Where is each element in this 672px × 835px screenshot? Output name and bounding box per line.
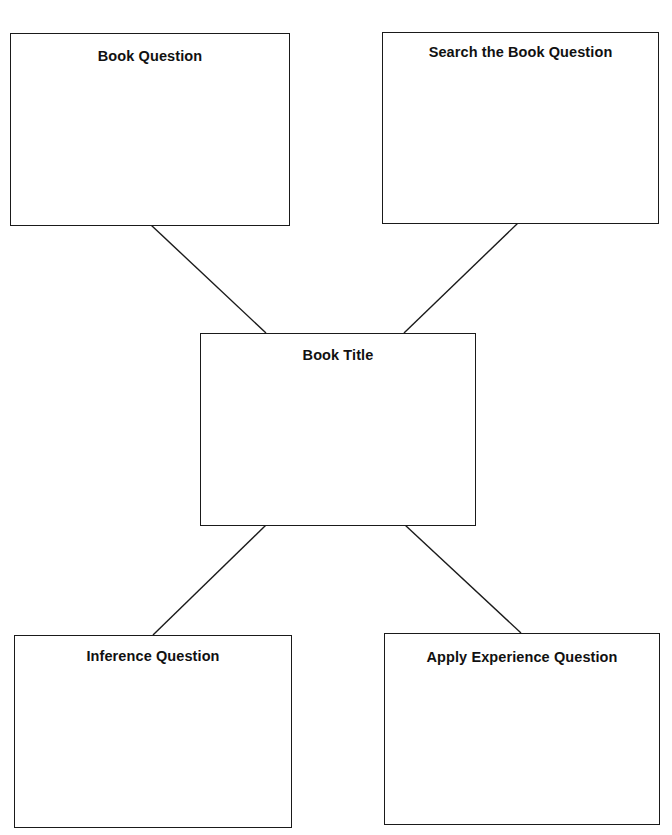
book-question-label: Book Question	[11, 48, 289, 64]
inference-question-box: Inference Question	[14, 635, 292, 828]
connector-title-to-apply-experience-question	[405, 525, 521, 633]
book-title-box: Book Title	[200, 333, 476, 526]
book-title-label: Book Title	[201, 347, 475, 363]
search-book-question-label: Search the Book Question	[383, 44, 658, 60]
apply-experience-question-label: Apply Experience Question	[385, 649, 659, 665]
search-book-question-box: Search the Book Question	[382, 32, 659, 224]
inference-question-label: Inference Question	[15, 648, 291, 664]
apply-experience-question-box: Apply Experience Question	[384, 633, 660, 825]
connector-title-to-inference-question	[153, 525, 266, 635]
book-question-box: Book Question	[10, 33, 290, 226]
connector-book-question-to-title	[151, 225, 266, 333]
connector-search-question-to-title	[404, 223, 518, 333]
